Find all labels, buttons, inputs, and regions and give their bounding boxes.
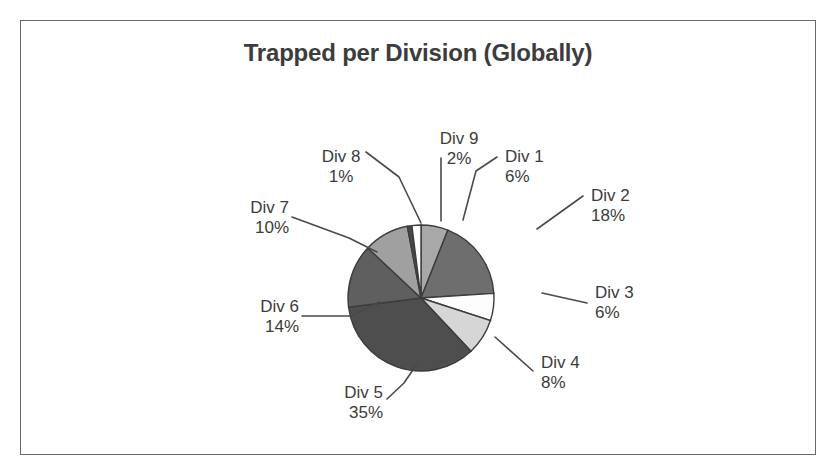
pie-label-div6-name: Div 6 bbox=[207, 297, 299, 317]
pie-label-div8-name: Div 8 bbox=[301, 147, 381, 167]
pie-label-div7: Div 7 10% bbox=[197, 198, 289, 238]
pie-label-div5-pct: 35% bbox=[287, 403, 383, 423]
pie-label-div8-pct: 1% bbox=[301, 167, 381, 187]
pie-label-div6-pct: 14% bbox=[207, 317, 299, 337]
pie-label-div5: Div 5 35% bbox=[287, 383, 383, 423]
pie-chart: Div 9 2% Div 8 1% Div 1 6% Div 2 18% Div… bbox=[21, 21, 817, 456]
pie-graphic bbox=[21, 21, 817, 456]
pie-label-div2: Div 2 18% bbox=[591, 186, 681, 226]
pie-label-div7-pct: 10% bbox=[197, 218, 289, 238]
chart-frame: Trapped per Division (Globally) Div 9 2%… bbox=[20, 20, 816, 455]
pie-label-div7-name: Div 7 bbox=[197, 198, 289, 218]
leader-line-div3 bbox=[542, 293, 587, 303]
pie-label-div9-pct: 2% bbox=[419, 149, 499, 169]
pie-label-div9-name: Div 9 bbox=[419, 129, 499, 149]
pie-label-div3-name: Div 3 bbox=[595, 283, 685, 303]
pie-label-div1-pct: 6% bbox=[505, 167, 595, 187]
pie-slices bbox=[348, 225, 494, 371]
pie-label-div9: Div 9 2% bbox=[419, 129, 499, 169]
leader-line-div2 bbox=[537, 196, 583, 229]
pie-label-div8: Div 8 1% bbox=[301, 147, 381, 187]
leader-line-div4 bbox=[495, 337, 533, 371]
leader-line-div7 bbox=[292, 217, 377, 252]
pie-label-div2-pct: 18% bbox=[591, 206, 681, 226]
pie-label-div4-name: Div 4 bbox=[541, 353, 631, 373]
pie-label-div3: Div 3 6% bbox=[595, 283, 685, 323]
pie-label-div5-name: Div 5 bbox=[287, 383, 383, 403]
pie-label-div6: Div 6 14% bbox=[207, 297, 299, 337]
pie-label-div4: Div 4 8% bbox=[541, 353, 631, 393]
pie-label-div4-pct: 8% bbox=[541, 373, 631, 393]
pie-label-div2-name: Div 2 bbox=[591, 186, 681, 206]
pie-label-div1: Div 1 6% bbox=[505, 147, 595, 187]
pie-label-div1-name: Div 1 bbox=[505, 147, 595, 167]
pie-label-div3-pct: 6% bbox=[595, 303, 685, 323]
